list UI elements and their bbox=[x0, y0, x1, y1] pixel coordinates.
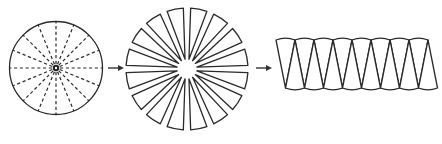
arrow-head bbox=[118, 65, 124, 71]
stage-rearranged-strip bbox=[276, 38, 438, 90]
arrow-1 bbox=[108, 65, 124, 71]
circle-area-diagram bbox=[0, 0, 442, 144]
diagram-canvas bbox=[0, 0, 442, 144]
arrow-2 bbox=[256, 65, 272, 71]
arrow-head bbox=[266, 65, 272, 71]
center-point-hole bbox=[55, 67, 57, 69]
stage-exploded-sectors bbox=[126, 8, 248, 130]
stage-circle bbox=[10, 22, 103, 115]
